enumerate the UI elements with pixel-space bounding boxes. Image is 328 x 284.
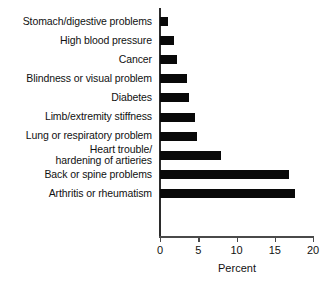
bar <box>160 55 177 64</box>
bar <box>160 113 195 122</box>
category-label: Lung or respiratory problem <box>26 130 152 142</box>
category-label: Cancer <box>119 54 152 66</box>
category-label: Back or spine problems <box>44 169 152 181</box>
category-label: Blindness or visual problem <box>26 73 152 85</box>
bar <box>160 151 221 160</box>
x-axis-tick-label: 20 <box>307 244 319 257</box>
category-label: Limb/extremity stiffness <box>45 111 152 123</box>
x-axis-tick-label: 10 <box>230 244 242 257</box>
x-axis-tick <box>160 237 161 242</box>
category-label: Arthritis or rheumatism <box>49 188 152 200</box>
x-axis-tick <box>313 237 314 242</box>
x-axis-title: Percent <box>160 262 314 274</box>
bar <box>160 189 295 198</box>
bar <box>160 17 168 26</box>
bar-chart: Stomach/digestive problemsHigh blood pre… <box>0 0 328 284</box>
bar <box>160 36 174 45</box>
category-label: Heart trouble/ hardening of artieries <box>56 144 152 167</box>
category-label-column: Stomach/digestive problemsHigh blood pre… <box>0 0 156 240</box>
bar <box>160 132 197 141</box>
x-axis-tick-label: 0 <box>157 244 163 257</box>
x-axis-tick-label: 15 <box>269 244 281 257</box>
bar <box>160 74 187 83</box>
category-label: High blood pressure <box>60 35 152 47</box>
x-axis-tick-label: 5 <box>195 244 201 257</box>
bar <box>160 170 289 179</box>
category-label: Diabetes <box>111 92 152 104</box>
category-label: Stomach/digestive problems <box>23 16 152 28</box>
x-axis-tick <box>198 237 199 242</box>
x-axis-tick <box>275 237 276 242</box>
x-axis-tick <box>237 237 238 242</box>
plot-area <box>160 8 313 236</box>
bar <box>160 93 189 102</box>
